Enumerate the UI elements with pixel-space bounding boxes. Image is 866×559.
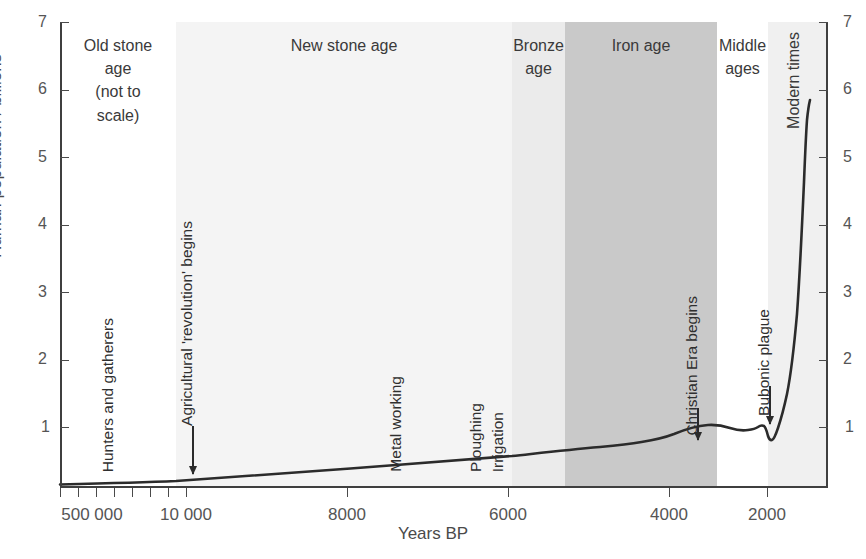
y-tick-label-4: 4 — [38, 216, 47, 232]
y-tick-right-2 — [819, 360, 828, 361]
y-tick-label-right-3: 3 — [843, 284, 852, 300]
x-tick-6000 — [508, 488, 509, 497]
y-tick-5 — [60, 157, 69, 158]
y-tick-label-right-5: 5 — [843, 149, 852, 165]
y-tick-right-1 — [819, 427, 828, 428]
y-tick-2 — [60, 360, 69, 361]
era-label-new-stone-age: New stone age — [176, 34, 512, 57]
annotation-arrow-bubonic-plague — [769, 386, 771, 424]
x-axis-title: Years BP — [0, 524, 866, 544]
annotation-hunters-and-gatherers: Hunters and gatherers — [98, 318, 119, 472]
x-tick-label-6000: 6000 — [489, 505, 527, 525]
x-tick-minor — [150, 488, 151, 497]
x-tick-label-8000: 8000 — [328, 505, 366, 525]
y-axis-title: Human population / billions — [0, 54, 6, 258]
x-tick-10000 — [186, 488, 187, 497]
y-tick-right-3 — [819, 292, 828, 293]
y-tick-right-4 — [819, 225, 828, 226]
y-tick-label-3: 3 — [38, 284, 47, 300]
y-tick-right-5 — [819, 157, 828, 158]
y-tick-label-right-4: 4 — [843, 216, 852, 232]
y-tick-label-right-6: 6 — [843, 81, 852, 97]
era-label-middle-ages: Middle ages — [717, 34, 768, 80]
x-tick-label-2000: 2000 — [748, 505, 786, 525]
era-label-bronze-age: Bronze age — [512, 34, 565, 80]
x-tick-label-500000: 500 000 — [61, 505, 122, 525]
y-tick-label-1: 1 — [41, 419, 50, 435]
annotation-arrow-christian-era — [697, 408, 699, 440]
y-tick-label-right-1: 1 — [845, 419, 854, 435]
y-axis-right-line — [826, 22, 828, 488]
y-tick-3 — [60, 292, 69, 293]
y-tick-label-right-2: 2 — [843, 351, 852, 367]
y-tick-label-6: 6 — [38, 81, 47, 97]
x-tick-minor — [78, 488, 79, 497]
era-label-old-stone-age: Old stone age (not to scale) — [60, 34, 176, 127]
annotation-irrigation: Irrigation — [488, 412, 509, 472]
y-tick-4 — [60, 225, 69, 226]
y-tick-7 — [60, 22, 69, 23]
x-tick-2000 — [767, 488, 768, 497]
annotation-metal-working: Metal working — [386, 376, 407, 472]
annotation-ploughing: Ploughing — [466, 403, 487, 472]
era-label-modern-times: Modern times — [782, 32, 805, 129]
y-tick-right-7 — [819, 22, 828, 23]
x-tick-label-10000: 10 000 — [160, 505, 212, 525]
x-tick-label-4000: 4000 — [650, 505, 688, 525]
x-tick-minor — [96, 488, 97, 497]
population-history-chart: Old stone age (not to scale) New stone a… — [0, 0, 866, 559]
x-tick-minor — [114, 488, 115, 497]
x-tick-8000 — [347, 488, 348, 497]
y-tick-1 — [60, 427, 69, 428]
plot-area: Old stone age (not to scale) New stone a… — [60, 22, 828, 488]
annotation-christian-era-begins: Christian Era begins — [682, 296, 703, 436]
x-tick-500000 — [60, 488, 61, 497]
era-label-iron-age: Iron age — [565, 34, 717, 57]
x-tick-minor — [168, 488, 169, 497]
annotation-agricultural-revolution: Agricultural 'revolution' begins — [177, 221, 198, 426]
y-tick-right-6 — [819, 90, 828, 91]
annotation-arrow-agricultural — [192, 426, 194, 474]
x-axis-line — [60, 486, 828, 488]
y-tick-label-2: 2 — [38, 351, 47, 367]
y-tick-label-right-7: 7 — [843, 14, 852, 30]
x-tick-4000 — [669, 488, 670, 497]
annotation-bubonic-plague: Bubonic plague — [754, 309, 775, 416]
y-tick-label-7: 7 — [38, 14, 47, 30]
x-tick-minor — [132, 488, 133, 497]
y-tick-label-5: 5 — [38, 149, 47, 165]
